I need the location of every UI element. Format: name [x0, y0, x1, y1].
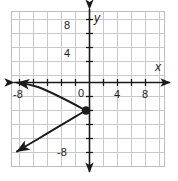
graph-figure: 8 4 -8 -8 4 8 0 x y [0, 0, 178, 181]
x-tick-label-8: 8 [142, 89, 148, 100]
y-tick-label-4: 4 [64, 48, 70, 59]
y-tick-label-neg8: -8 [57, 147, 67, 158]
vertex-point-marker [82, 106, 91, 115]
x-tick-label-neg8: -8 [13, 89, 23, 100]
y-tick-label-8: 8 [64, 20, 70, 31]
origin-label: 0 [78, 88, 84, 99]
coordinate-plane-svg [0, 0, 178, 181]
y-axis-label: y [94, 12, 100, 24]
x-axis-label: x [155, 61, 161, 73]
x-tick-label-4: 4 [114, 89, 120, 100]
